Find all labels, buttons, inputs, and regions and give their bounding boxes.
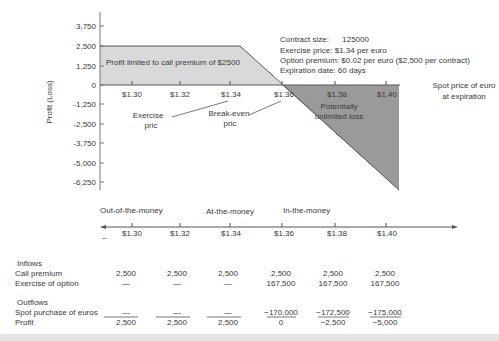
x-axis-label-line2: at expiration xyxy=(442,92,486,101)
moneyness-tick-label: $1.30 xyxy=(122,229,143,238)
loss-region-label-line2: unlimited loss xyxy=(315,112,363,121)
y-tick-label: -1,250 xyxy=(73,100,96,109)
y-tick-label: 3,750 xyxy=(76,22,97,31)
table-cell: 2,500 xyxy=(375,269,396,278)
x-tick-label: $1.32 xyxy=(170,90,191,99)
y-tick-label: 1,250 xyxy=(76,62,97,71)
x-tick-label: $1.30 xyxy=(122,90,143,99)
table-cell: — xyxy=(122,279,130,288)
table-cell: −5,000 xyxy=(373,318,398,327)
moneyness-tick-label: $1.38 xyxy=(327,229,348,238)
x-axis-label-line1: Spot price of euro xyxy=(432,81,496,90)
y-tick-label: -6,250 xyxy=(73,178,96,187)
exercise-price-label-line1: Exercise xyxy=(133,111,164,120)
outflows-header: Outflows xyxy=(17,298,48,307)
bottom-divider xyxy=(0,334,499,341)
table-cell: 167,500 xyxy=(371,279,400,288)
y-tick-label: -5,000 xyxy=(73,159,96,168)
right-arrow-icon xyxy=(452,225,458,229)
table-cell: — xyxy=(173,308,181,317)
y-tick-label: 2,500 xyxy=(76,42,97,51)
x-tick-label: $1.38 xyxy=(327,90,348,99)
exercise-price-label-line2: pric xyxy=(145,121,158,130)
table-cell: 2,500 xyxy=(167,269,188,278)
expiration-date: Expiration date: 60 days xyxy=(280,66,366,75)
table-cell: −172,500 xyxy=(316,308,350,317)
in-the-money-label: In-the-money xyxy=(283,206,330,215)
spot-purchase-label: Spot purchase of euros xyxy=(15,308,98,317)
breakeven-label-line2: pric xyxy=(224,119,237,128)
moneyness-tick-label: $1.36 xyxy=(274,229,295,238)
profit-region-label: Profit limited to call premium of $2500 xyxy=(106,58,240,67)
moneyness-tick-label: $1.32 xyxy=(170,229,191,238)
table-cell: 0 xyxy=(279,318,284,327)
moneyness-tick-label: $1.40 xyxy=(377,229,398,238)
left-arrow-icon xyxy=(100,225,106,229)
minus-mark: – xyxy=(102,233,107,242)
moneyness-ticks xyxy=(132,223,386,227)
x-tick-label: $1.34 xyxy=(221,90,242,99)
table-cell: — xyxy=(173,279,181,288)
contract-size: Contract size: 125000 xyxy=(280,35,369,44)
table-cell: 2,500 xyxy=(271,269,292,278)
y-tick-label: -3,750 xyxy=(73,139,96,148)
x-tick-label: $1.36 xyxy=(274,90,295,99)
table-cell: −175,000 xyxy=(368,308,402,317)
y-axis-label: Profit (Loss) xyxy=(45,80,54,123)
y-tick-label: -2,500 xyxy=(73,120,96,129)
profit-label: Profit xyxy=(15,318,34,327)
breakeven-pointer xyxy=(249,101,281,115)
table-cell: 2,500 xyxy=(116,318,137,327)
call-writer-chart: 3,750 2,500 1,250 0 -1,250 -2,500 -3,750… xyxy=(0,0,499,341)
table-cell: 2,500 xyxy=(323,269,344,278)
table-cell: −170,000 xyxy=(264,308,298,317)
table-cell: 2,500 xyxy=(167,318,188,327)
spot-purchase-row: — — — −170,000 −172,500 −175,000 xyxy=(122,308,402,317)
call-premium-label: Call premium xyxy=(15,269,62,278)
breakeven-label-line1: Break-even xyxy=(209,109,250,118)
table-cell: 2,500 xyxy=(116,269,137,278)
table-cell: 2,500 xyxy=(218,318,239,327)
call-premium-row: 2,500 2,500 2,500 2,500 2,500 2,500 xyxy=(116,269,396,278)
profit-row: 2,500 2,500 2,500 0 −2,500 −5,000 xyxy=(116,318,398,327)
inflows-header: Inflows xyxy=(17,259,42,268)
y-tick-label: 0 xyxy=(92,81,97,90)
table-cell: — xyxy=(224,279,232,288)
table-cell: 2,500 xyxy=(218,269,239,278)
table-cell: — xyxy=(224,308,232,317)
table-cell: — xyxy=(122,308,130,317)
x-tick-label: $1.40 xyxy=(377,90,398,99)
table-cell: −2,500 xyxy=(321,318,346,327)
exercise-row: — — — 167,500 167,500 167,500 xyxy=(122,279,400,288)
exercise-price: Exercise price: $1.34 per euro xyxy=(280,46,387,55)
moneyness-tick-label: $1.34 xyxy=(221,229,242,238)
out-of-the-money-label: Out-of-the-money xyxy=(100,206,163,215)
at-the-money-label: At-the-money xyxy=(206,207,254,216)
y-tick-labels: 3,750 2,500 1,250 0 -1,250 -2,500 -3,750… xyxy=(73,22,96,187)
moneyness-tick-labels: $1.30 $1.32 $1.34 $1.36 $1.38 $1.40 xyxy=(122,229,398,238)
loss-region-label-line1: Potentially xyxy=(321,102,358,111)
table-cell: 167,500 xyxy=(267,279,296,288)
table-cell: 167,500 xyxy=(319,279,348,288)
exercise-option-label: Exercise of option xyxy=(15,279,79,288)
option-premium: Option premium: $0.02 per euro ($2,500 p… xyxy=(280,56,470,65)
